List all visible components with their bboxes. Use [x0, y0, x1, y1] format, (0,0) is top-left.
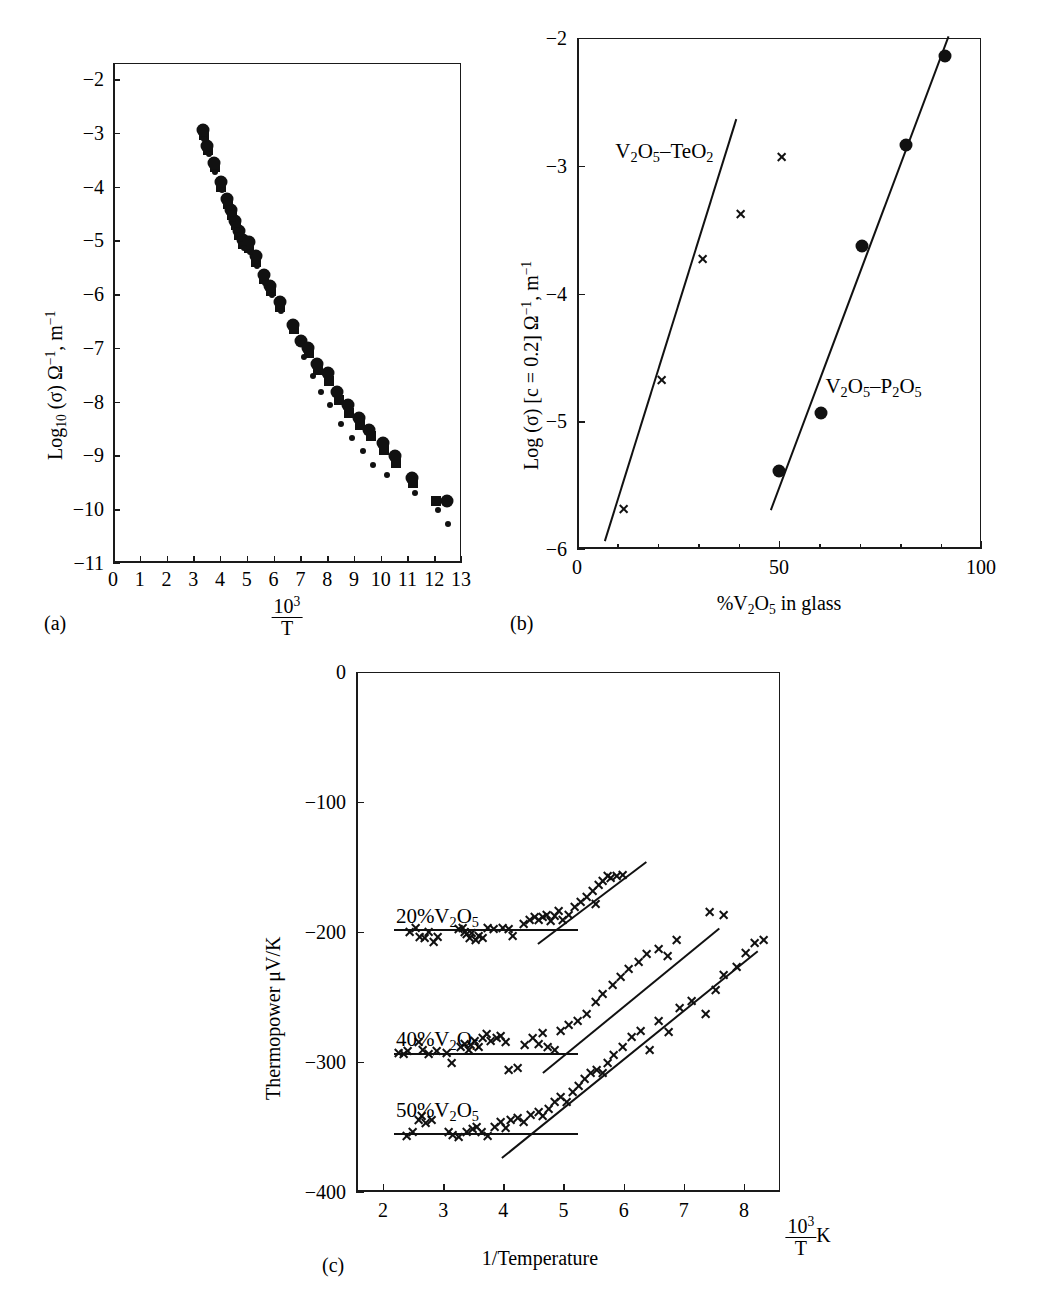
- data-point-square: [431, 496, 441, 506]
- panel-b-y-tick: [577, 38, 585, 39]
- panel-b-x-minor-tick: [941, 544, 942, 549]
- data-point-large-circle: [440, 494, 453, 507]
- panel-b-x-minor-tick: [617, 544, 618, 549]
- panel-b-chart: V2O5–TeO2V2O5–P2O5 050100−2−3−4−5−6 Log …: [500, 0, 1037, 650]
- panel-b-x-tick-label: 0: [572, 557, 582, 577]
- data-point-small-dot: [262, 280, 268, 286]
- data-point-40%V2O5: [549, 1045, 560, 1056]
- panel-c-x-tick-label: 7: [679, 1200, 689, 1220]
- panel-b-x-tick: [981, 541, 982, 549]
- panel-c-tag: (c): [322, 1254, 344, 1277]
- panel-a-y-tick-label: −5: [44, 230, 104, 250]
- panel-a-x-tick-label: 12: [424, 569, 444, 589]
- panel-c-x-tick-label: 8: [739, 1200, 749, 1220]
- data-point-small-dot: [226, 205, 232, 211]
- panel-a-y-tick: [113, 509, 120, 510]
- data-point-small-dot: [318, 389, 324, 395]
- panel-c-x-axis-unit: 103 T K: [785, 1216, 830, 1259]
- data-point-square: [391, 458, 401, 468]
- data-point-small-dot: [201, 136, 207, 142]
- panel-a-x-tick: [461, 556, 462, 563]
- panel-a-y-tick-label: −6: [44, 284, 104, 304]
- data-point-50%V2O5: [663, 1026, 674, 1037]
- panel-c-y-tick-label: −400: [286, 1182, 346, 1202]
- data-point-small-dot: [435, 507, 441, 513]
- panel-b-plot-area: V2O5–TeO2V2O5–P2O5: [579, 39, 980, 547]
- data-point-40%V2O5: [581, 1008, 592, 1019]
- data-point-V2O5-TeO2: [776, 151, 787, 162]
- panel-c-x-tick: [624, 1184, 625, 1192]
- panel-a-x-title-denominator: T: [272, 617, 303, 639]
- data-point-small-dot: [269, 292, 275, 298]
- data-point-50%V2O5: [710, 985, 721, 996]
- data-point-40%V2O5: [537, 1028, 548, 1039]
- panel-a-x-tick: [247, 556, 248, 563]
- panel-a-x-tick-label: 11: [398, 569, 417, 589]
- data-point-50%V2O5: [597, 1068, 608, 1079]
- panel-b-x-tick-label: 50: [769, 557, 789, 577]
- data-point-40%V2O5: [500, 1037, 511, 1048]
- panel-c-x-unit-numerator: 103: [785, 1216, 816, 1237]
- panel-c-x-tick: [503, 1184, 504, 1192]
- panel-a-x-tick-label: 2: [162, 569, 172, 589]
- data-point-square: [324, 376, 334, 386]
- panel-b-y-axis-title: Log (σ) [c = 0.2] Ω−1, m−1: [520, 261, 543, 470]
- data-point-V2O5-P2O5: [772, 464, 785, 477]
- data-point-small-dot: [301, 354, 307, 360]
- panel-a-y-tick-label: −2: [44, 69, 104, 89]
- panel-b-y-tick: [577, 549, 585, 550]
- data-point-50%V2O5: [686, 995, 697, 1006]
- panel-a-x-tick-label: 9: [349, 569, 359, 589]
- panel-a-x-tick-label: 10: [371, 569, 391, 589]
- panel-a-x-tick-label: 5: [242, 569, 252, 589]
- panel-a-x-tick: [140, 556, 141, 563]
- panel-a-x-tick: [434, 556, 435, 563]
- data-point-small-dot: [241, 245, 247, 251]
- panel-b-y-tick-label: −3: [507, 156, 567, 176]
- data-point-20%V2O5: [617, 869, 628, 880]
- panel-c-y-tick-label: 0: [286, 662, 346, 682]
- figure-root: 012345678910111213−2−3−4−5−6−7−8−9−10−11…: [0, 0, 1037, 1289]
- panel-a-x-tick: [381, 556, 382, 563]
- data-point-square: [334, 395, 344, 405]
- panel-c-y-axis-title: Thermopower μV/K: [262, 937, 285, 1100]
- data-point-20%V2O5: [432, 931, 443, 942]
- data-point-square: [289, 324, 299, 334]
- panel-b-x-minor-tick: [819, 544, 820, 549]
- data-point-20%V2O5: [477, 933, 488, 944]
- data-point-40%V2O5: [671, 934, 682, 945]
- panel-a-y-tick: [113, 563, 120, 564]
- data-point-40%V2O5: [704, 907, 715, 918]
- panel-a-y-tick-label: −10: [44, 499, 104, 519]
- data-point-square: [366, 431, 376, 441]
- data-point-V2O5-TeO2: [656, 375, 667, 386]
- panel-a-x-tick-label: 4: [215, 569, 225, 589]
- data-point-40%V2O5: [718, 909, 729, 920]
- panel-a-y-tick: [113, 240, 120, 241]
- panel-b-y-tick-label: −2: [507, 28, 567, 48]
- data-point-V2O5-P2O5: [938, 49, 951, 62]
- panel-c-x-tick-label: 4: [498, 1200, 508, 1220]
- panel-a-y-tick: [113, 187, 120, 188]
- data-point-V2O5-P2O5: [855, 239, 868, 252]
- series-annotation-50%V2O5: 50%V2O5: [396, 1098, 479, 1123]
- data-point-40%V2O5: [662, 951, 673, 962]
- panel-a-y-tick-label: −4: [44, 177, 104, 197]
- panel-b-x-axis-title: %V2O5 in glass: [717, 592, 842, 615]
- series-annotation-20%V2O5: 20%V2O5: [396, 904, 479, 929]
- panel-c-x-tick: [563, 1184, 564, 1192]
- panel-c-axes-frame: 20%V2O540%V2O550%V2O5: [356, 672, 780, 1192]
- panel-a-x-tick: [193, 556, 194, 563]
- panel-b-y-tick: [577, 166, 585, 167]
- panel-c-y-tick-label: −300: [286, 1052, 346, 1072]
- panel-a-y-axis-title: Log10 (σ) Ω−1, m−1: [44, 311, 67, 460]
- trend-line-V2O5-P2O5: [770, 36, 950, 511]
- data-point-small-dot: [360, 448, 366, 454]
- panel-c-y-tick-label: −200: [286, 922, 346, 942]
- panel-c-y-tick: [356, 1192, 364, 1193]
- data-point-20%V2O5: [590, 899, 601, 910]
- panel-a-x-tick: [407, 556, 408, 563]
- panel-a-x-tick: [300, 556, 301, 563]
- panel-c-x-tick-label: 2: [378, 1200, 388, 1220]
- panel-c-chart: 20%V2O540%V2O550%V2O5 23456780−100−200−3…: [200, 650, 840, 1289]
